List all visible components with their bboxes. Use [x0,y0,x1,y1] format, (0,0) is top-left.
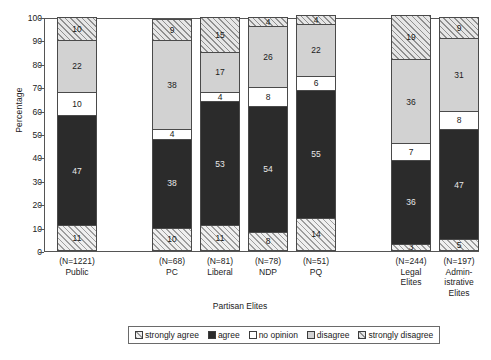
bar-pc: 93843810 [152,19,192,251]
bar-liberal: 151745311 [200,17,240,251]
bar-segment-value: 38 [167,81,176,90]
bar-segment: 11 [200,225,240,251]
bar-segment-value: 9 [457,24,462,33]
x-axis-label: (N=51)PQ [279,256,353,277]
bar-segment: 15 [200,17,240,52]
bar-segment-value: 19 [406,33,415,42]
bar-segment: 19 [391,15,431,59]
legend-label: disagree [317,330,350,340]
bar-segment: 9 [152,19,192,40]
legend-swatch-icon [358,331,366,339]
bar-segment: 10 [57,92,97,115]
bar-segment-value: 36 [406,198,415,207]
bar-segment-value: 9 [170,26,175,35]
bar-segment: 9 [439,17,479,38]
bar-segment-value: 11 [216,234,225,243]
category-name-label: Admin- [422,267,491,278]
legend-item: disagree [307,330,350,340]
bar-segment-value: 22 [311,46,320,55]
bar-segment-value: 22 [72,62,81,71]
bar-segment-value: 47 [454,181,463,190]
bar-segment-value: 10 [72,100,81,109]
bar-segment: 8 [248,87,288,106]
bar-segment: 7 [391,143,431,159]
bar-segment-value: 54 [263,165,272,174]
legend-item: strongly agree [135,330,199,340]
legend-label: strongly disagree [368,330,433,340]
bar-segment: 47 [57,115,97,225]
bar-segment-value: 55 [311,150,320,159]
y-tick-label: 100 [0,13,42,23]
bar-segment-value: 26 [263,53,272,62]
y-tick-label: 80 [0,60,42,70]
bar-segment-value: 8 [457,116,462,125]
y-tick-label: 40 [0,153,42,163]
category-name-label: PQ [279,267,353,278]
bar-segment: 53 [200,101,240,225]
bar-segment-value: 8 [266,237,271,246]
legend-swatch-icon [307,331,315,339]
bar-segment-value: 47 [72,167,81,176]
bar-segment: 38 [152,40,192,129]
bar-segment: 36 [391,59,431,143]
legend-label: no opinion [259,330,298,340]
bar-segment-value: 14 [311,230,320,239]
bar-segment-value: 10 [167,235,176,244]
bar-segment: 14 [296,218,336,251]
bar-segment: 10 [152,228,192,251]
y-tick-label: 30 [0,177,42,187]
y-tick-label: 90 [0,36,42,46]
bar-segment: 8 [248,232,288,251]
bar-segment: 17 [200,52,240,92]
bar-segment: 22 [296,24,336,75]
bar-segment: 26 [248,26,288,87]
legend-items: strongly agreeagreeno opiniondisagreestr… [135,330,433,340]
legend-item: no opinion [249,330,298,340]
bar-segment-value: 4 [266,18,271,26]
category-name-label: istrative [422,277,491,288]
x-axis-label: (N=197)Admin-istrativeElites [422,256,491,298]
sample-size-label: (N=1221) [40,256,114,267]
bar-segment-value: 4 [170,130,175,138]
legend-label: agree [218,330,240,340]
legend-swatch-icon [249,331,257,339]
bar-segment: 4 [200,92,240,101]
category-name-label: Public [40,267,114,278]
bar-segment-value: 6 [314,79,319,88]
bar-segment-value: 5 [457,241,462,250]
bar-segment-value: 15 [215,31,224,40]
legend-swatch-icon [135,331,143,339]
bar-segment: 36 [391,160,431,244]
legend: strongly agreeagreeno opiniondisagreestr… [128,326,440,344]
bar-segment-value: 17 [215,68,224,77]
bar-segment-value: 7 [409,148,414,157]
sample-size-label: (N=197) [422,256,491,267]
y-tick-label: 10 [0,224,42,234]
bar-segment-value: 4 [218,93,223,101]
bar-segment: 55 [296,90,336,219]
x-axis-label: (N=1221)Public [40,256,114,277]
bar-segment-value: 38 [167,179,176,188]
legend-swatch-icon [208,331,216,339]
bar-segment: 11 [57,225,97,251]
bar-administrative-elites: 9318475 [439,17,479,251]
bar-pq: 42265514 [296,15,336,251]
bar-segment-value: 11 [73,234,82,243]
legend-item: agree [208,330,240,340]
bar-segment-value: 53 [215,160,224,169]
bar-segment-value: 36 [406,98,415,107]
plot-area: 1022104711938438101517453114268548422655… [44,18,479,252]
category-name-label: Elites [422,288,491,299]
bar-segment: 47 [439,129,479,239]
sample-size-label: (N=51) [279,256,353,267]
bar-segment: 31 [439,38,479,111]
y-tick-label: 0 [0,247,42,257]
bar-segment: 4 [248,17,288,26]
y-tick-label: 50 [0,130,42,140]
bar-legal-elites: 19367363 [391,15,431,251]
bar-segment: 3 [391,244,431,251]
y-tick-label: 20 [0,200,42,210]
bar-segment: 38 [152,139,192,228]
bar-segment: 10 [57,17,97,40]
bar-segment: 6 [296,76,336,90]
